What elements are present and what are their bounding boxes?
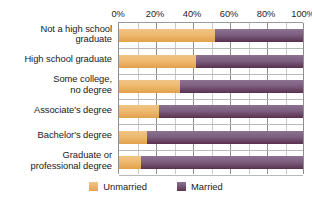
row-separator: [119, 74, 303, 75]
row-separator: [119, 150, 303, 151]
y-axis-label: Some college,no degree: [0, 74, 112, 95]
bar-segment-married[interactable]: [147, 131, 303, 144]
bar-segment-unmarried[interactable]: [119, 131, 147, 144]
row-separator: [119, 124, 303, 125]
x-tick-label: 100%: [291, 9, 312, 19]
x-tick-label: 20%: [146, 9, 164, 19]
bar-row[interactable]: [119, 105, 303, 118]
y-axis-label-line: graduate: [0, 34, 112, 45]
y-axis-label: Associate's degree: [0, 105, 112, 116]
bar-segment-married[interactable]: [141, 156, 303, 169]
x-tick-label: 0%: [111, 9, 124, 19]
stacked-bar-chart: 0%20%40%60%80%100% Not a high schoolgrad…: [0, 0, 312, 197]
bar-segment-unmarried[interactable]: [119, 80, 180, 93]
bar-segment-unmarried[interactable]: [119, 55, 196, 68]
plot-area: [118, 22, 303, 174]
unmarried-swatch-icon: [89, 182, 98, 191]
x-axis-tick-labels: 0%20%40%60%80%100%: [0, 9, 312, 21]
row-separator: [119, 99, 303, 100]
y-axis-label: Graduate orprofessional degree: [0, 150, 112, 171]
y-axis-label: High school graduate: [0, 54, 112, 65]
y-axis-label-line: High school graduate: [0, 54, 112, 65]
bar-segment-married[interactable]: [159, 105, 303, 118]
bar-segment-married[interactable]: [215, 29, 303, 42]
y-axis-label: Bachelor's degree: [0, 130, 112, 141]
bar-row[interactable]: [119, 131, 303, 144]
bar-segment-unmarried[interactable]: [119, 29, 215, 42]
bar-row[interactable]: [119, 29, 303, 42]
y-axis-label: Not a high schoolgraduate: [0, 24, 112, 45]
legend-label-unmarried: Unmarried: [103, 181, 147, 192]
row-separator: [119, 175, 303, 176]
married-swatch-icon: [177, 182, 186, 191]
x-tick-label: 60%: [220, 9, 238, 19]
row-separator: [119, 48, 303, 49]
y-axis-label-line: professional degree: [0, 161, 112, 172]
bar-segment-married[interactable]: [196, 55, 303, 68]
bar-segment-unmarried[interactable]: [119, 105, 159, 118]
bar-row[interactable]: [119, 156, 303, 169]
bar-segment-unmarried[interactable]: [119, 156, 141, 169]
legend-item-unmarried[interactable]: Unmarried: [89, 181, 147, 192]
legend-label-married: Married: [191, 181, 223, 192]
bar-segment-married[interactable]: [180, 80, 303, 93]
chart-title-clipped: [0, 0, 312, 7]
y-axis-label-line: Associate's degree: [0, 105, 112, 116]
x-tick-label: 80%: [257, 9, 275, 19]
legend-item-married[interactable]: Married: [177, 181, 223, 192]
y-axis-label-line: Bachelor's degree: [0, 130, 112, 141]
y-axis-label-line: no degree: [0, 85, 112, 96]
x-tick-label: 40%: [183, 9, 201, 19]
chart-legend: Unmarried Married: [0, 178, 312, 194]
y-axis-category-labels: Not a high schoolgraduateHigh school gra…: [0, 22, 116, 174]
bar-row[interactable]: [119, 55, 303, 68]
gridline: [303, 23, 304, 174]
bar-row[interactable]: [119, 80, 303, 93]
